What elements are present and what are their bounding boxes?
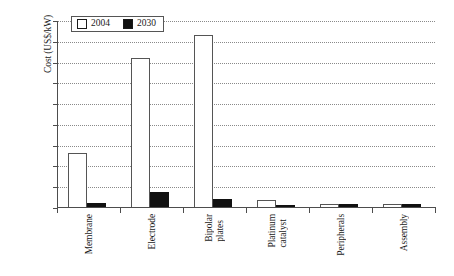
bar-group: [183, 21, 246, 208]
open-square-icon: [77, 19, 87, 29]
x-axis-label-5: Assembly: [372, 212, 435, 276]
x-axis-label-line: catalyst: [278, 214, 289, 248]
bar-groups: [57, 21, 435, 208]
x-axis-label-line: Assembly: [398, 214, 409, 251]
x-axis-label-3: Platinumcatalyst: [246, 212, 309, 276]
x-axis-label-2: Bipolarplates: [183, 212, 246, 276]
legend-label-2030: 2030: [137, 19, 156, 29]
legend-label-2004: 2004: [91, 19, 110, 29]
legend-item-2004: 2004: [77, 19, 110, 29]
bar-chart: Cost (US$/kW) 90080070060050040030020010…: [0, 0, 454, 276]
bar-2004: [131, 58, 150, 208]
x-axis-label-line: plates: [215, 214, 226, 242]
bar-2004: [194, 35, 213, 208]
x-axis-line: [57, 207, 436, 208]
x-axis-label-line: Platinum: [267, 214, 278, 248]
chart-legend: 2004 2030: [71, 16, 164, 32]
filled-square-icon: [123, 19, 133, 29]
x-axis-label-1: Electrode: [120, 212, 183, 276]
bar-group: [309, 21, 372, 208]
y-axis-line: [57, 21, 58, 208]
x-axis-labels: MembraneElectrodeBipolarplatesPlatinumca…: [57, 212, 435, 276]
x-axis-label-4: Peripherals: [309, 212, 372, 276]
x-axis-label-line: Electrode: [146, 214, 157, 250]
x-axis-label-0: Membrane: [57, 212, 120, 276]
bar-group: [120, 21, 183, 208]
bar-group: [372, 21, 435, 208]
legend-item-2030: 2030: [123, 19, 156, 29]
y-axis-title: Cost (US$/kW): [43, 15, 53, 73]
x-axis-label-line: Peripherals: [335, 214, 346, 256]
bar-2030: [150, 192, 169, 208]
x-tick-mark: [435, 208, 436, 213]
plot-area: Cost (US$/kW) 90080070060050040030020010…: [57, 21, 435, 208]
x-axis-label-line: Bipolar: [204, 214, 215, 242]
bar-group: [57, 21, 120, 208]
x-axis-label-line: Membrane: [83, 214, 94, 254]
bar-2004: [68, 153, 87, 208]
bar-group: [246, 21, 309, 208]
